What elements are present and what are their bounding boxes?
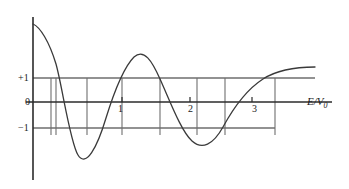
plot-canvas — [0, 0, 349, 189]
x-axis-title-subscript: 0 — [324, 101, 328, 110]
x-axis-title-main: E/V — [307, 95, 324, 107]
x-tick-label-two: 2 — [188, 104, 193, 114]
x-axis-title: E/V0 — [307, 96, 328, 110]
x-tick-label-three: 3 — [252, 104, 257, 114]
data-curve-damped-oscillation — [33, 24, 315, 159]
y-tick-label-minus-one: −1 — [18, 123, 29, 133]
y-tick-label-plus-one: +1 — [18, 73, 29, 83]
y-tick-label-zero: 0 — [25, 97, 30, 107]
x-tick-label-one: 1 — [118, 104, 123, 114]
figure-container: +1 0 −1 1 2 3 E/V0 — [0, 0, 349, 189]
